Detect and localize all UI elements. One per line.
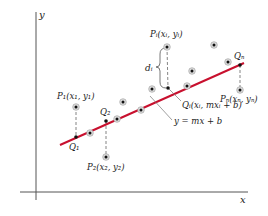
x-axis-label: x: [240, 194, 246, 205]
di-label: dᵢ: [145, 63, 153, 73]
q2-label: Q₂: [100, 107, 111, 117]
regression-diagram: y x dᵢ P₁(x₁, y₁) P₂(x₂, y₂): [0, 0, 268, 216]
p1-label: P₁(x₁, y₁): [56, 91, 95, 101]
q1-label: Q₁: [69, 142, 79, 152]
di-brace: [156, 48, 166, 88]
p2-label: P₂(x₂, y₂): [86, 162, 125, 172]
qn-label: Qₙ: [234, 51, 245, 61]
qi-label: Qᵢ(xᵢ, mxᵢ + b): [182, 100, 242, 110]
y-axis-label: y: [38, 9, 45, 20]
pi-label: Pᵢ(xᵢ, yᵢ): [149, 29, 182, 39]
line-equation-label: y = mx + b: [173, 116, 222, 126]
